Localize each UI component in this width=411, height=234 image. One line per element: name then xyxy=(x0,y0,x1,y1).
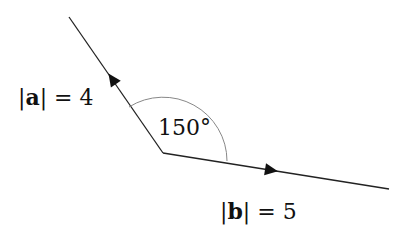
arrowhead-a-icon xyxy=(104,70,121,88)
angle-label: 150° xyxy=(158,117,211,139)
vector-angle-diagram: |a| = 4 150° |b| = 5 xyxy=(0,0,411,234)
vector-b-magnitude-label: |b| = 5 xyxy=(220,200,297,223)
vector-a-magnitude-label: |a| = 4 xyxy=(18,86,94,109)
arrowhead-b-icon xyxy=(264,163,279,177)
